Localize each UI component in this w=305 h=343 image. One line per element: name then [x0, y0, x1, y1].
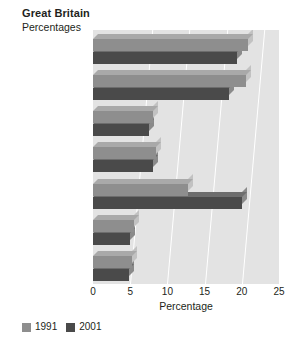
x-axis: 0510152025	[93, 284, 279, 300]
bar-1991	[93, 220, 134, 232]
bar-1991	[93, 147, 156, 159]
bar-front-face	[93, 124, 149, 136]
bar-2001	[93, 124, 149, 136]
bar-front-face	[93, 184, 188, 196]
bar-2001	[93, 197, 242, 209]
bar-front-face	[93, 111, 153, 123]
bar-1991	[93, 75, 246, 87]
bar-2001	[93, 160, 153, 172]
plot-area: Black CaribbeanBlack AfricanBangladeshiP…	[93, 30, 279, 284]
bar-1991	[93, 111, 153, 123]
legend-swatch	[22, 323, 31, 332]
chart-legend: 19912001	[22, 322, 102, 332]
bar-front-face	[93, 197, 242, 209]
category-row: Chinese	[93, 211, 279, 247]
chart-figure: Great Britain Percentages Black Caribbea…	[0, 0, 305, 343]
bar-2001	[93, 269, 129, 281]
legend-item: 1991	[22, 322, 57, 332]
x-tick-label: 15	[199, 286, 210, 297]
category-row: Black Caribbean	[93, 30, 279, 66]
bar-front-face	[93, 233, 130, 245]
bar-1991	[93, 184, 188, 196]
legend-label: 1991	[35, 322, 57, 332]
category-row: Black African	[93, 66, 279, 102]
x-axis-title: Percentage	[93, 300, 279, 312]
chart-title: Great Britain	[22, 6, 222, 20]
x-tick-label: 25	[273, 286, 284, 297]
bar-front-face	[93, 160, 153, 172]
category-row: Bangladeshi	[93, 103, 279, 139]
legend-item: 2001	[66, 322, 101, 332]
x-tick-label: 5	[127, 286, 133, 297]
category-row: White	[93, 175, 279, 211]
bar-2001	[93, 52, 237, 64]
x-tick-label: 0	[90, 286, 96, 297]
legend-swatch	[66, 323, 75, 332]
bar-front-face	[93, 52, 237, 64]
bar-2001	[93, 88, 229, 100]
bar-front-face	[93, 256, 132, 268]
category-row: Pakistani	[93, 139, 279, 175]
bar-1991	[93, 39, 248, 51]
bar-1991	[93, 256, 132, 268]
bar-front-face	[93, 75, 246, 87]
x-tick-label: 20	[236, 286, 247, 297]
legend-label: 2001	[79, 322, 101, 332]
bar-front-face	[93, 147, 156, 159]
bar-front-face	[93, 220, 134, 232]
bar-front-face	[93, 39, 248, 51]
x-tick-label: 10	[162, 286, 173, 297]
bar-front-face	[93, 269, 129, 281]
category-row: Indian	[93, 248, 279, 284]
bar-2001	[93, 233, 130, 245]
bar-front-face	[93, 88, 229, 100]
